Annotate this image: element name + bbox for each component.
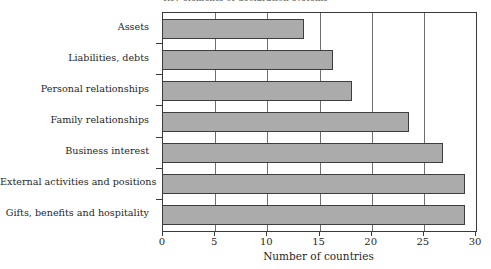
y-axis-tick-mark (156, 43, 162, 44)
y-axis-tick-label: Gifts, benefits and hospitality (0, 207, 149, 218)
y-axis-tick-label: Family relationships (0, 114, 149, 125)
y-axis-category-labels: AssetsLiabilities, debtsPersonal relatio… (0, 12, 157, 230)
y-axis-tick-mark (156, 168, 162, 169)
bar-row (163, 174, 476, 194)
bar-row (163, 112, 476, 132)
bar[interactable] (162, 112, 409, 132)
y-axis-tick-label: Business interest (0, 145, 149, 156)
bar[interactable] (162, 81, 352, 101)
y-axis-tick-mark (156, 105, 162, 106)
y-axis-tick-label: Liabilities, debts (0, 52, 149, 63)
bar[interactable] (162, 174, 465, 194)
x-axis-title: Number of countries (162, 250, 475, 262)
bar[interactable] (162, 143, 443, 163)
x-axis-tick-label: 0 (147, 236, 177, 247)
y-axis-tick-label: Assets (0, 21, 149, 32)
bar[interactable] (162, 205, 465, 225)
y-axis-tick-mark (156, 137, 162, 138)
chart-title: Key elements of declaration systems (0, 0, 491, 1)
y-axis-tick-label: Personal relationships (0, 83, 149, 94)
x-axis-tick-label: 15 (304, 236, 334, 247)
bar-row (163, 81, 476, 101)
bar-row (163, 19, 476, 39)
y-axis-tick-mark (156, 199, 162, 200)
bar[interactable] (162, 50, 333, 70)
bar-row (163, 50, 476, 70)
y-axis-tick-label: External activities and positions (0, 176, 149, 187)
plot-area (162, 12, 477, 232)
x-axis-tick-label: 30 (460, 236, 490, 247)
x-axis-tick-label: 5 (199, 236, 229, 247)
bar-row (163, 143, 476, 163)
chart-figure: Key elements of declaration systems Asse… (0, 0, 491, 269)
x-axis-tick-label: 20 (356, 236, 386, 247)
y-axis-tick-mark (156, 74, 162, 75)
bar-row (163, 205, 476, 225)
x-axis-tick-label: 25 (408, 236, 438, 247)
x-axis-tick-label: 10 (251, 236, 281, 247)
bar[interactable] (162, 19, 304, 39)
